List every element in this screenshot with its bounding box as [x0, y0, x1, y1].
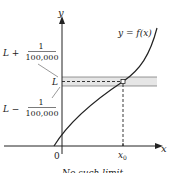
- lower-bound-prefix: L −: [2, 104, 19, 114]
- origin-label: 0: [54, 151, 60, 161]
- y-axis-label: y: [57, 7, 64, 18]
- lower-fraction-numerator: 1: [38, 98, 43, 107]
- x0-label: x0: [118, 150, 127, 161]
- upper-leader-line: [38, 64, 58, 77]
- lower-fraction-denominator: 100,000: [25, 109, 58, 118]
- upper-bound-prefix: L +: [2, 48, 19, 58]
- x-axis-label: x: [161, 143, 167, 154]
- upper-fraction-numerator: 1: [38, 42, 43, 51]
- upper-fraction-denominator: 100,000: [25, 53, 58, 62]
- function-curve: [54, 28, 157, 146]
- lower-leader-line: [52, 87, 60, 98]
- L-label: L: [51, 77, 58, 87]
- curve-label: y = f(x): [117, 28, 152, 38]
- caption: No such limit: [61, 168, 123, 173]
- limit-diagram: y x 0 y = f(x) L L + 1 100,000 L − 1 100…: [0, 0, 169, 173]
- limit-point: [121, 80, 125, 84]
